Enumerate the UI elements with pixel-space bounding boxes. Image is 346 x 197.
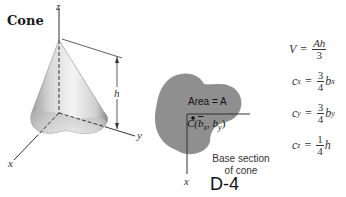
centroid-label: C(bx, by) [187,117,225,132]
formula-cx: cx = 34 bx [292,70,335,93]
caption-line-1: Base section [211,153,271,165]
x-axis-line [14,137,36,160]
fraction: 34 [317,102,325,125]
y-axis-line [109,128,135,136]
height-arrow-top [115,57,119,63]
formula-cz: cz = 14 h [292,134,331,157]
denominator: 4 [318,82,324,93]
formula-lhs-sub: x [297,77,301,86]
y-axis-label: y [137,129,142,141]
formula-lhs-sub: y [297,109,301,118]
formula-suffix: h [325,138,331,153]
denominator: 4 [317,146,323,157]
fraction: Ah3 [312,38,326,61]
formula-lhs-sub: z [297,141,300,150]
z-axis-label: z [56,0,60,12]
equals-sign: = [305,74,312,89]
formula-lhs: V [289,42,296,57]
centroid-c: C( [187,117,198,129]
figure-number: D-4 [210,174,239,195]
formula-volume: V = Ah3 [289,38,327,61]
apex-extension-line [62,39,122,58]
base-x-axis-label: x [184,175,189,187]
fraction: 14 [316,134,324,157]
denominator: 4 [318,114,324,125]
formula-suffix-sub: y [331,109,335,118]
equals-sign: = [304,138,311,153]
centroid-close: ) [222,117,226,129]
cone-diagram [0,0,346,197]
fraction: 34 [317,70,325,93]
height-arrow-bottom [115,123,119,129]
x-axis-label: x [8,157,13,169]
denominator: 3 [316,50,322,61]
equals-sign: = [300,42,307,57]
equals-sign: = [305,106,312,121]
formula-cy: cy = 34 by [292,102,335,125]
formula-suffix-sub: x [331,77,335,86]
cone-solid [31,40,108,134]
area-label: Area = A [188,96,227,107]
height-label: h [113,87,121,99]
